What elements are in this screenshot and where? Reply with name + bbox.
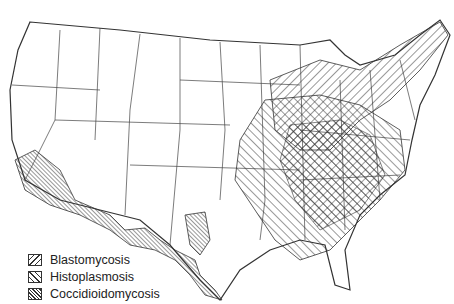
us-map: Blastomycosis Histoplasmosis Coccidioido… (0, 0, 454, 304)
legend-item-blastomycosis: Blastomycosis (28, 252, 160, 268)
legend-item-histoplasmosis: Histoplasmosis (28, 269, 160, 285)
legend-item-coccidioidomycosis: Coccidioidomycosis (28, 286, 160, 302)
blastomycosis-swatch-icon (28, 254, 42, 266)
coccidioidomycosis-swatch-icon (28, 288, 42, 300)
legend-label: Histoplasmosis (50, 270, 134, 284)
legend-label: Coccidioidomycosis (50, 287, 160, 301)
histoplasmosis-swatch-icon (28, 271, 42, 283)
map-legend: Blastomycosis Histoplasmosis Coccidioido… (28, 252, 160, 303)
legend-label: Blastomycosis (50, 253, 130, 267)
